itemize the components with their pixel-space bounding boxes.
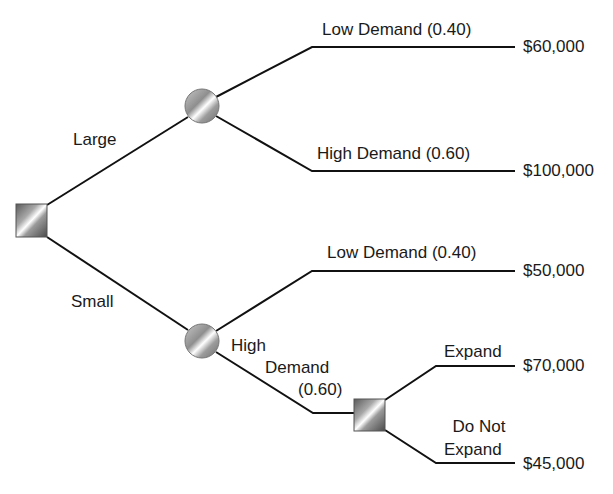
option-label-do-not-line1: Do Not bbox=[444, 417, 514, 436]
payoff-large-high: $100,000 bbox=[523, 161, 594, 180]
branch-expand-line bbox=[385, 366, 515, 400]
outcome-label-small-high-line1: High bbox=[231, 336, 266, 355]
payoff-do-not-expand: $45,000 bbox=[523, 454, 584, 473]
branch-small-low-demand-line bbox=[216, 271, 515, 331]
option-label-expand: Expand bbox=[444, 342, 502, 361]
payoff-small-low: $50,000 bbox=[523, 261, 584, 280]
outcome-label-small-high-line2: Demand bbox=[265, 358, 329, 377]
branch-label-small: Small bbox=[71, 292, 114, 311]
decision-tree-canvas bbox=[0, 0, 613, 494]
branch-label-large: Large bbox=[73, 130, 116, 149]
outcome-label-small-low: Low Demand (0.40) bbox=[327, 243, 476, 262]
outcome-label-small-high-line3: (0.60) bbox=[298, 380, 342, 399]
payoff-expand: $70,000 bbox=[523, 356, 584, 375]
chance-node-small bbox=[185, 324, 219, 358]
branch-large-line bbox=[47, 117, 188, 205]
branch-small-line bbox=[47, 237, 188, 330]
outcome-label-large-high: High Demand (0.60) bbox=[317, 144, 470, 163]
outcome-label-large-low: Low Demand (0.40) bbox=[322, 20, 471, 39]
decision-node-expand bbox=[354, 399, 385, 431]
decision-node-root bbox=[16, 204, 47, 237]
option-label-do-not-line2: Expand bbox=[444, 440, 502, 459]
payoff-large-low: $60,000 bbox=[523, 37, 584, 56]
chance-node-large bbox=[185, 89, 219, 123]
branch-large-low-demand-line bbox=[216, 47, 515, 97]
